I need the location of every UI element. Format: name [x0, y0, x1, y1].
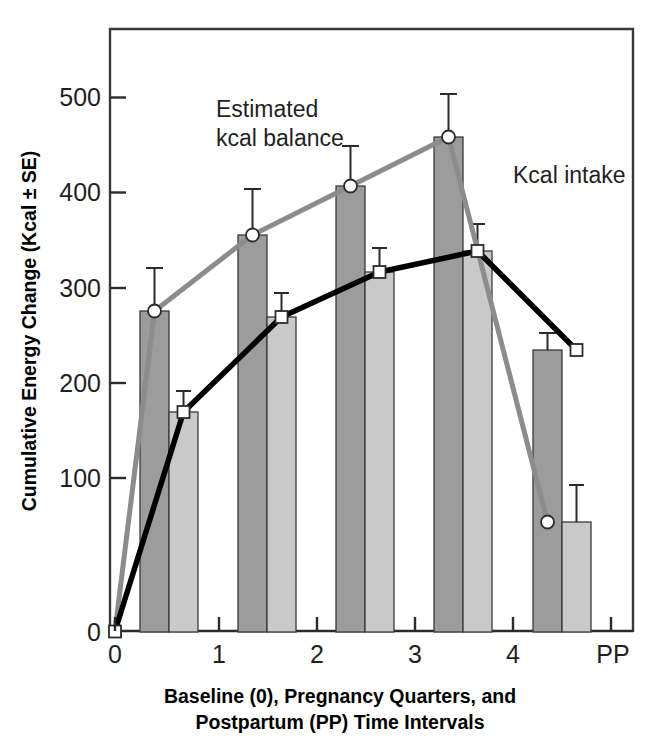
xtick-label-4: 4 [506, 640, 520, 668]
marker-balance-q2 [246, 229, 259, 242]
ytick-label-500: 500 [59, 83, 101, 111]
xtick-label-3: 3 [408, 640, 422, 668]
annotation-estimated-line1: Estimated [216, 96, 318, 122]
x-axis-title-line1: Baseline (0), Pregnancy Quarters, and [164, 685, 516, 707]
ytick-label-400: 400 [59, 178, 101, 206]
ytick-label-300: 300 [59, 274, 101, 302]
marker-intake-q2 [276, 311, 288, 323]
marker-balance-q4 [442, 131, 455, 144]
ytick-label-100: 100 [59, 464, 101, 492]
bar-balance-q4 [434, 137, 463, 632]
marker-balance-pp [541, 516, 554, 529]
xtick-label-0: 0 [108, 640, 122, 668]
ytick-label-0: 0 [87, 618, 101, 646]
bar-intake-pp [562, 522, 591, 632]
y-axis-title: Cumulative Energy Change (Kcal ± SE) [18, 151, 40, 512]
marker-intake-pp [571, 344, 583, 356]
annotation-kcal-intake: Kcal intake [513, 162, 626, 188]
marker-intake-q3 [374, 266, 386, 278]
bar-intake-q4 [463, 251, 492, 632]
chart-svg: 500 400 300 200 100 0 Cumulative Energy … [0, 0, 658, 739]
xtick-label-2: 2 [310, 640, 324, 668]
annotation-estimated-line2: kcal balance [216, 125, 344, 151]
marker-balance-q3 [344, 180, 357, 193]
xtick-label-pp: PP [596, 640, 629, 668]
marker-balance-q1 [148, 305, 161, 318]
xtick-label-1: 1 [212, 640, 226, 668]
marker-intake-q4 [472, 245, 484, 257]
ytick-label-200: 200 [59, 369, 101, 397]
marker-intake-q1 [178, 406, 190, 418]
bar-balance-q2 [238, 235, 267, 632]
bar-balance-q3 [336, 186, 365, 632]
x-axis-title-line2: Postpartum (PP) Time Intervals [196, 711, 485, 733]
bar-intake-q2 [267, 317, 296, 632]
bar-intake-q3 [365, 272, 394, 632]
chart-figure: 500 400 300 200 100 0 Cumulative Energy … [0, 0, 658, 739]
